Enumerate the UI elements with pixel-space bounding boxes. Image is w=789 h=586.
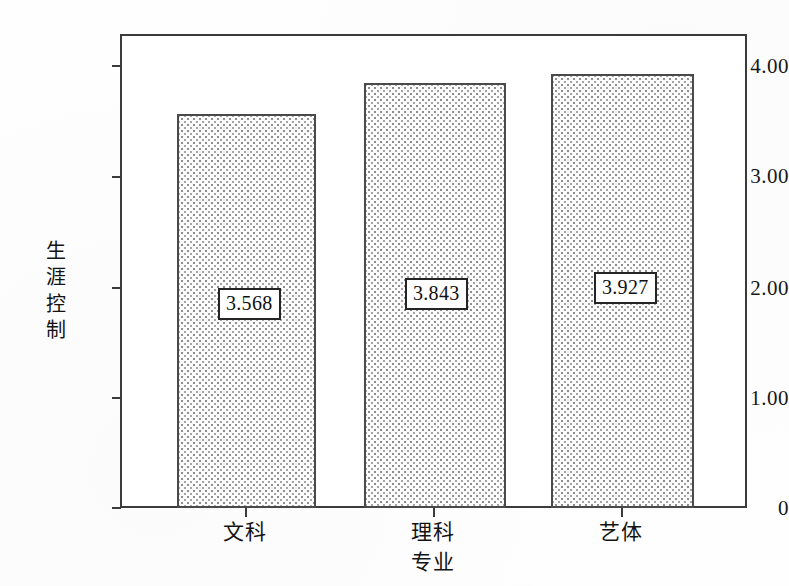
x-tick-label-like: 理科 [373, 515, 493, 545]
chart-page: 生 涯 控 制 4.00 3.00 2.00 1.00 0 3.568 3.84… [0, 0, 789, 586]
bar-value-label-yiti: 3.927 [594, 272, 657, 304]
y-axis-title: 生 涯 控 制 [42, 238, 70, 344]
y-axis-title-char: 制 [42, 317, 70, 343]
x-axis-title: 专业 [373, 545, 493, 575]
bar-value-label-wenke: 3.568 [218, 288, 281, 320]
y-axis-title-char: 控 [42, 291, 70, 317]
y-axis-title-char: 涯 [42, 264, 70, 290]
bar-value-label-like: 3.843 [405, 278, 468, 310]
y-axis-title-char: 生 [42, 238, 70, 264]
x-tick-label-wenke: 文科 [185, 515, 305, 545]
x-tick-label-yiti: 艺体 [561, 515, 681, 545]
